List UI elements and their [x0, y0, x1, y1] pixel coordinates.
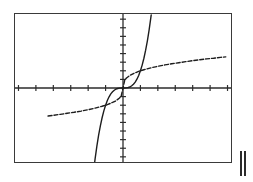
screenshot-root [0, 0, 253, 182]
double-bar-mark-bar-left [240, 151, 242, 176]
double-bar-mark [240, 151, 248, 176]
double-bar-mark-bar-right [244, 151, 246, 176]
graph-canvas [15, 14, 231, 162]
curve-cube-root [48, 57, 226, 116]
plot-frame [14, 13, 232, 163]
